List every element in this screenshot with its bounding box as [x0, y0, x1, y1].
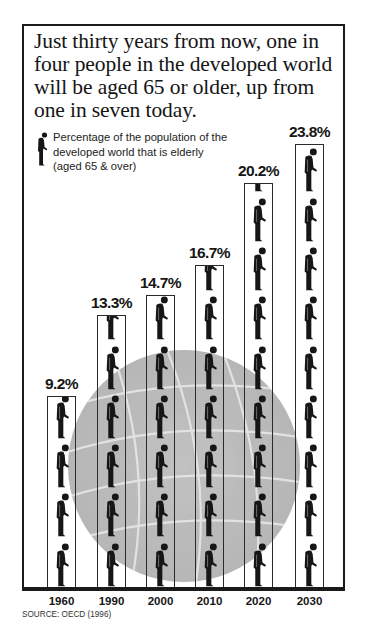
elderly-person-icon	[153, 493, 169, 541]
elderly-person-icon	[302, 296, 318, 344]
elderly-person-icon	[251, 493, 267, 541]
elderly-person-icon	[153, 444, 169, 492]
elderly-person-icon	[36, 132, 48, 170]
elderly-person-icon	[54, 444, 70, 492]
value-label-1990: 13.3%	[77, 294, 147, 312]
elderly-person-icon	[251, 296, 267, 344]
elderly-person-icon	[302, 144, 318, 147]
bar-2020	[244, 183, 273, 588]
elderly-person-icon	[302, 198, 318, 246]
year-label-2020: 2020	[234, 595, 284, 607]
elderly-person-icon	[251, 444, 267, 492]
elderly-person-icon	[302, 346, 318, 394]
year-label-2010: 2010	[185, 595, 235, 607]
elderly-person-icon	[104, 346, 120, 394]
elderly-person-icon	[54, 396, 70, 443]
elderly-person-icon	[302, 444, 318, 492]
elderly-person-icon	[302, 247, 318, 295]
elderly-person-icon	[202, 296, 218, 344]
elderly-person-icon	[202, 346, 218, 394]
elderly-person-icon	[153, 395, 169, 443]
headline: Just thirty years from now, one in four …	[34, 30, 334, 122]
elderly-person-icon	[54, 493, 70, 541]
elderly-person-icon	[104, 543, 120, 588]
elderly-person-icon	[202, 493, 218, 541]
value-label-2010: 16.7%	[175, 244, 245, 262]
elderly-person-icon	[153, 543, 169, 588]
value-label-2030: 23.8%	[275, 123, 345, 141]
elderly-person-icon	[104, 315, 120, 344]
elderly-person-icon	[54, 543, 70, 588]
elderly-person-icon	[104, 444, 120, 492]
legend-text: Percentage of the population of the deve…	[53, 130, 233, 174]
bar-2000	[146, 295, 175, 588]
elderly-person-icon	[202, 395, 218, 443]
value-label-2000: 14.7%	[126, 274, 196, 292]
elderly-person-icon	[302, 148, 318, 196]
bar-1960	[47, 396, 76, 588]
value-label-1960: 9.2%	[27, 375, 97, 393]
year-label-2030: 2030	[285, 595, 335, 607]
elderly-person-icon	[202, 543, 218, 588]
bar-1990	[97, 315, 126, 588]
elderly-person-icon	[251, 395, 267, 443]
elderly-person-icon	[202, 444, 218, 492]
year-label-2000: 2000	[136, 595, 186, 607]
elderly-person-icon	[251, 247, 267, 295]
elderly-person-icon	[153, 346, 169, 394]
elderly-person-icon	[251, 543, 267, 588]
elderly-person-icon	[251, 183, 267, 196]
source-note: SOURCE: OECD (1996)	[22, 610, 111, 619]
year-label-1960: 1960	[37, 595, 87, 607]
bar-2030	[295, 144, 324, 588]
elderly-person-icon	[302, 543, 318, 588]
elderly-person-icon	[104, 493, 120, 541]
bar-2010	[195, 265, 224, 588]
value-label-2020: 20.2%	[224, 162, 294, 180]
elderly-person-icon	[302, 395, 318, 443]
year-label-1990: 1990	[87, 595, 137, 607]
elderly-person-icon	[153, 296, 169, 344]
elderly-person-icon	[302, 493, 318, 541]
elderly-person-icon	[251, 198, 267, 246]
elderly-person-icon	[202, 265, 218, 295]
elderly-person-icon	[251, 346, 267, 394]
baseline-axis	[22, 587, 345, 590]
elderly-person-icon	[104, 395, 120, 443]
